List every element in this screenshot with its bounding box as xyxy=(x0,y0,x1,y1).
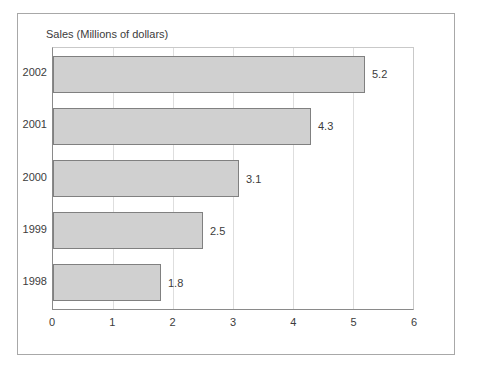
bar-value-label: 1.8 xyxy=(168,277,183,289)
tick-label: 2 xyxy=(170,316,176,328)
bar-row: 2.5 xyxy=(53,212,413,249)
tick-label: 6 xyxy=(411,316,417,328)
category-axis-labels: 20022001200019991998 xyxy=(18,47,47,310)
tick-label: 0 xyxy=(49,316,55,328)
bar-row: 3.1 xyxy=(53,160,413,197)
bar[interactable] xyxy=(53,212,203,249)
tick-label: 4 xyxy=(290,316,296,328)
bar-row: 1.8 xyxy=(53,264,413,301)
bar[interactable] xyxy=(53,264,161,301)
bar-value-label: 2.5 xyxy=(210,225,225,237)
bar-value-label: 3.1 xyxy=(246,173,261,185)
bar-row: 5.2 xyxy=(53,56,413,93)
chart-figure: Sales (Millions of dollars) 5.24.33.12.5… xyxy=(17,13,455,355)
bar-value-label: 4.3 xyxy=(318,120,333,132)
bar-series: 5.24.33.12.51.8 xyxy=(53,48,413,309)
plot-area: 5.24.33.12.51.8 xyxy=(52,47,414,310)
category-label: 1998 xyxy=(23,275,47,287)
tick-label: 3 xyxy=(230,316,236,328)
tick-label: 1 xyxy=(109,316,115,328)
bar-row: 4.3 xyxy=(53,108,413,145)
chart-title: Sales (Millions of dollars) xyxy=(46,28,168,40)
bar[interactable] xyxy=(53,108,311,145)
category-label: 2002 xyxy=(23,66,47,78)
category-label: 2000 xyxy=(23,171,47,183)
category-label: 2001 xyxy=(23,118,47,130)
bar[interactable] xyxy=(53,160,239,197)
bar-value-label: 5.2 xyxy=(372,68,387,80)
category-label: 1999 xyxy=(23,223,47,235)
value-axis-tick-labels: 0123456 xyxy=(52,316,414,332)
bar[interactable] xyxy=(53,56,365,93)
tick-label: 5 xyxy=(351,316,357,328)
